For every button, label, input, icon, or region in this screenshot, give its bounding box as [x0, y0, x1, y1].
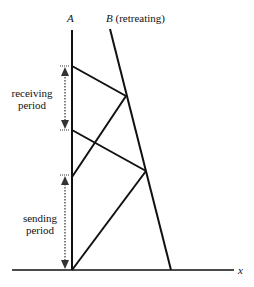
signal-return-late: [72, 130, 146, 171]
label-b-note: (retreating): [115, 12, 164, 24]
sending-label-line1: sending: [20, 212, 60, 224]
signal-sent-early: [72, 96, 126, 177]
label-a: A: [67, 12, 74, 24]
sending-label-line2: period: [20, 224, 60, 236]
x-axis-label: x: [238, 264, 243, 276]
receiving-period-arrow: [60, 66, 70, 130]
receiving-label-line2: period: [8, 99, 56, 111]
signal-return-early: [72, 66, 126, 96]
radar-pulse-diagram: [0, 0, 254, 287]
label-b-letter: B: [106, 12, 113, 24]
signal-sent-late: [72, 171, 146, 270]
label-b: B (retreating): [106, 12, 165, 24]
sending-period-label: sending period: [20, 212, 60, 236]
receiving-period-label: receiving period: [8, 87, 56, 111]
sending-period-arrow: [60, 175, 70, 269]
worldline-b: [110, 29, 171, 270]
receiving-label-line1: receiving: [8, 87, 56, 99]
